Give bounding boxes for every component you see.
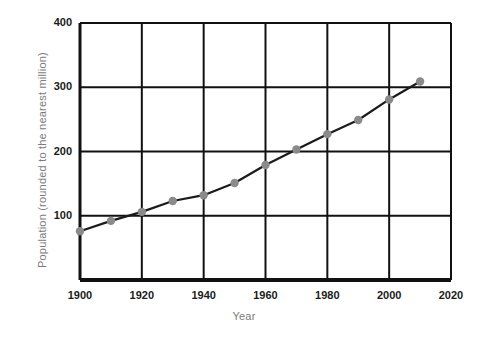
data-point-marker	[323, 130, 331, 138]
y-tick-label: 200	[28, 145, 72, 157]
y-tick-label: 300	[28, 80, 72, 92]
x-tick-label: 2000	[363, 289, 415, 301]
x-tick-label: 1900	[54, 289, 106, 301]
population-line-chart: Population (rounded to the nearest milli…	[0, 0, 488, 338]
data-point-marker	[261, 161, 269, 169]
x-tick-label: 1980	[301, 289, 353, 301]
data-point-marker	[169, 197, 177, 205]
plot-area	[0, 0, 488, 338]
data-point-marker	[416, 77, 424, 85]
data-point-marker	[292, 145, 300, 153]
data-line	[80, 81, 420, 231]
data-point-marker	[385, 95, 393, 103]
data-point-marker	[107, 217, 115, 225]
x-tick-label: 2020	[425, 289, 477, 301]
data-point-marker	[230, 179, 238, 187]
y-tick-label: 100	[28, 209, 72, 221]
x-tick-label: 1920	[116, 289, 168, 301]
data-point-marker	[138, 208, 146, 216]
data-point-marker	[354, 116, 362, 124]
x-tick-label: 1940	[178, 289, 230, 301]
data-point-marker	[199, 191, 207, 199]
data-point-marker	[76, 227, 84, 235]
x-tick-label: 1960	[240, 289, 292, 301]
y-tick-label: 400	[28, 16, 72, 28]
